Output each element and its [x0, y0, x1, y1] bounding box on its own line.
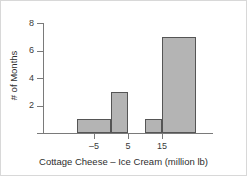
y-axis-tick	[37, 78, 43, 79]
x-axis-tick	[128, 133, 129, 139]
histogram-bar	[145, 119, 162, 133]
plot-area: 2 4 6 8 –5 5 15	[0, 0, 247, 176]
y-axis-tick-label: 2	[29, 101, 34, 110]
x-axis-tick	[94, 133, 95, 139]
x-axis-tick-label: 15	[147, 141, 177, 151]
y-axis-tick	[37, 106, 43, 107]
x-axis-tick-label: –5	[79, 141, 109, 151]
histogram-bar	[162, 37, 196, 133]
x-axis-tick-label: 5	[113, 141, 143, 151]
y-axis-title: # of Months	[8, 31, 19, 121]
y-axis-line	[43, 23, 44, 134]
y-axis-tick-label: 8	[29, 19, 34, 28]
y-axis-tick	[37, 133, 43, 134]
x-axis-title: Cottage Cheese – Ice Cream (million lb)	[0, 156, 247, 167]
y-axis-tick	[37, 51, 43, 52]
y-axis-tick-label: 6	[29, 46, 34, 55]
histogram-figure: 2 4 6 8 –5 5 15 Cottage Cheese – Ice Cre…	[0, 0, 247, 176]
x-axis-tick	[162, 133, 163, 139]
y-axis-tick-label: 4	[29, 74, 34, 83]
histogram-bar	[77, 119, 111, 133]
y-axis-tick	[37, 23, 43, 24]
histogram-bar	[111, 92, 128, 133]
